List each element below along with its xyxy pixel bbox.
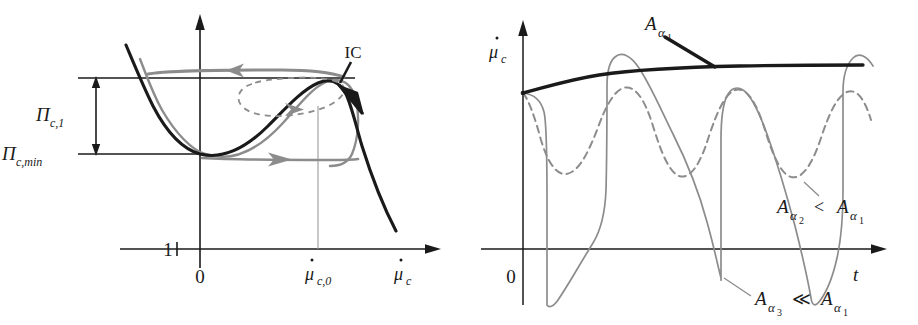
characteristic-curve-panel: IC Π c,1 Π c,min 1 0 μ c,0 xyxy=(0,0,459,325)
a-alpha-3-subsub: 3 xyxy=(777,307,782,318)
t-axis-label: t xyxy=(853,264,859,285)
gray-characteristic-branch xyxy=(140,59,358,166)
x-axis-label-mu-c: μ c xyxy=(393,259,412,289)
mu-c0-dot-icon xyxy=(311,259,314,262)
a-alpha-3-compare-sub: α xyxy=(834,300,842,315)
a-alpha-1-label: A α 1 xyxy=(643,13,672,43)
a-alpha-2-compare-sub: α xyxy=(850,208,858,223)
a-alpha-3-label: A α 3 ≪ A α 1 xyxy=(753,288,848,318)
origin-label-right: 0 xyxy=(506,266,516,287)
mu-c-subscript: c xyxy=(406,274,412,288)
pi-c-min-base: Π xyxy=(1,143,17,164)
series-start-point xyxy=(521,91,526,96)
t-axis-arrowhead xyxy=(871,244,887,254)
a-alpha-2-label: A α 2 < A α 1 xyxy=(775,196,864,226)
pi-c-1-base: Π xyxy=(35,104,51,125)
a-alpha-3-compare-subsub: 1 xyxy=(843,307,848,318)
mu-c0-base: μ xyxy=(304,264,314,284)
hysteresis-upper-line xyxy=(148,70,344,77)
pi-c-1-label: Π c,1 xyxy=(35,104,64,130)
x-tick-label-origin: 0 xyxy=(195,266,205,287)
time-series-panel: A α 1 A α 2 < A α 1 A α 3 xyxy=(459,0,918,325)
a-alpha-2-compare-subsub: 1 xyxy=(859,215,864,226)
mu-c-right-base: μ xyxy=(488,42,498,62)
ic-leader-line xyxy=(340,62,351,83)
a-alpha-2-relation: < xyxy=(814,197,824,217)
ic-label: IC xyxy=(345,43,362,62)
y-axis-group-right xyxy=(518,20,528,305)
a-alpha-1-leader-line xyxy=(665,37,715,67)
pi-c-min-label: Π c,min xyxy=(1,143,42,169)
series-a-alpha-1-saturating xyxy=(523,65,863,93)
measure-arrow-pi-c-1 xyxy=(92,76,100,156)
a-alpha-1-subsub: 1 xyxy=(667,32,672,43)
pi-c-1-subscript: c,1 xyxy=(50,116,64,130)
pi-c-min-subscript: c,min xyxy=(16,155,42,169)
a-alpha-3-sub: α xyxy=(768,300,776,315)
y-axis-arrowhead xyxy=(195,14,205,30)
t-axis-group xyxy=(481,244,887,254)
x-axis-arrowhead xyxy=(425,244,441,254)
hysteresis-upper-trajectory xyxy=(148,64,344,78)
a-alpha-2-compare-base: A xyxy=(835,196,849,217)
a-alpha-2-base: A xyxy=(775,196,789,217)
mu-c0-subscript: c,0 xyxy=(317,274,331,288)
mu-c-dot-icon xyxy=(400,259,403,262)
a-alpha-2-sub: α xyxy=(790,208,798,223)
a-alpha-2-subsub: 2 xyxy=(799,215,804,226)
a-alpha-3-leader-line xyxy=(724,278,751,296)
y-axis-arrowhead-right xyxy=(518,20,528,36)
y-axis-label-mu-c-right: μ c xyxy=(488,37,507,67)
y-axis-group xyxy=(195,14,205,268)
x-tick-label-mu-c0: μ c,0 xyxy=(304,259,331,289)
series-a-alpha-2-oscillation xyxy=(523,87,871,177)
a-alpha-1-base: A xyxy=(643,13,657,34)
a-alpha-3-compare-base: A xyxy=(819,288,833,309)
a-alpha-3-relation: ≪ xyxy=(792,289,811,309)
mu-c-right-dot-icon xyxy=(496,37,499,40)
series-a-alpha-3-relaxation xyxy=(523,54,873,306)
a-alpha-2-leader-line xyxy=(804,182,819,196)
x-tick-label-minus-one: 1 xyxy=(163,239,173,260)
a-alpha-1-sub: α xyxy=(658,25,666,40)
mu-c-right-subscript: c xyxy=(501,52,507,66)
left-panel-svg: IC Π c,1 Π c,min 1 0 μ c,0 xyxy=(0,0,459,325)
right-panel-svg: A α 1 A α 2 < A α 1 A α 3 xyxy=(459,0,918,325)
inner-limit-cycle-loop xyxy=(238,77,344,116)
mu-c-base: μ xyxy=(393,264,403,284)
figure-root: IC Π c,1 Π c,min 1 0 μ c,0 xyxy=(0,0,918,325)
a-alpha-3-base: A xyxy=(753,288,767,309)
